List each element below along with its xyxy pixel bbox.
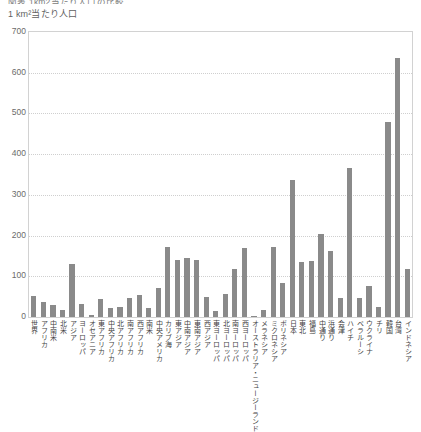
y-tick-label: 600 (2, 68, 26, 77)
y-tick-label: 300 (2, 190, 26, 199)
x-tick-label: 西アジア (202, 320, 211, 348)
bar (242, 248, 247, 317)
x-tick-label: ウクライナ (364, 320, 373, 355)
bar (89, 315, 94, 317)
bars-layer (29, 32, 412, 317)
bar (98, 299, 103, 317)
bar (347, 168, 352, 317)
x-tick-label: ベラルーシ (355, 320, 364, 355)
bar (175, 260, 180, 317)
bar (280, 283, 285, 317)
x-tick-label: オーストラリア・ニュージーランド (250, 320, 259, 432)
x-axis-labels: 世界アフリカ中南米北米アジアヨーロッパオセアニア東アフリカ中央アフリカ北アフリカ… (29, 320, 412, 424)
bar (261, 310, 266, 317)
x-tick-label: オセアニア (87, 320, 96, 355)
y-tick-label: 700 (2, 27, 26, 36)
x-tick-label: 中南米 (48, 320, 57, 341)
bar (376, 307, 381, 317)
x-tick-label: 北米 (58, 320, 67, 334)
x-tick-label: インドネシア (403, 320, 412, 362)
x-tick-label: 東アジア (173, 320, 182, 348)
x-tick-label: 北アフリカ (115, 320, 124, 355)
bar (318, 234, 323, 317)
x-tick-label: 東北 (297, 320, 306, 334)
bar (290, 180, 295, 317)
x-tick-label: 南アフリカ (125, 320, 134, 355)
y-tick-label: 100 (2, 271, 26, 280)
bar (213, 311, 218, 318)
x-tick-label: 西アフリカ (135, 320, 144, 355)
x-tick-label: 日本 (288, 320, 297, 334)
x-tick-label: 浜通り (326, 320, 335, 341)
x-tick-label: アフリカ (39, 320, 48, 348)
x-tick-label: 世界 (29, 320, 38, 334)
x-tick-label: ハイチ (345, 320, 354, 341)
x-tick-label: ミクロネシア (269, 320, 278, 362)
bar (309, 261, 314, 317)
bar (385, 122, 390, 317)
x-tick-label: ヨーロッパ (77, 320, 86, 355)
bar (357, 298, 362, 317)
clipped-figure-title: 図表 1km2当たり人口の比較 (8, 0, 124, 4)
bar (184, 258, 189, 317)
x-tick-label: ポリネシア (278, 320, 287, 355)
x-tick-label: 東南アジア (192, 320, 201, 355)
bar (232, 269, 237, 317)
x-tick-label: 西ヨーロッパ (240, 320, 249, 362)
y-tick-label: 400 (2, 149, 26, 158)
bar (194, 260, 199, 317)
bar (366, 286, 371, 317)
bar (60, 310, 65, 317)
x-tick-label: 韓国 (384, 320, 393, 334)
bar (204, 297, 209, 317)
x-tick-label: 福島 (307, 320, 316, 334)
x-tick-label: チリ (374, 320, 383, 334)
x-tick-label: 北ヨーロッパ (221, 320, 230, 362)
chart-axis-note: 1 km²当たり人口 (8, 7, 78, 20)
bar (31, 296, 36, 317)
bar (79, 304, 84, 317)
x-tick-label: 中南アジア (182, 320, 191, 355)
bar (405, 269, 410, 317)
x-tick-label: 中央アフリカ (106, 320, 115, 362)
bar (146, 308, 151, 317)
bar (223, 294, 228, 317)
x-tick-label: 南米 (144, 320, 153, 334)
bar (251, 316, 256, 317)
x-tick-label: 会津 (336, 320, 345, 334)
x-tick-label: 南ヨーロッパ (230, 320, 239, 362)
y-axis: 0100200300400500600700 (0, 31, 26, 318)
bar (165, 247, 170, 317)
y-tick-label: 200 (2, 231, 26, 240)
bar (127, 298, 132, 317)
x-tick-label: 東ヨーロッパ (211, 320, 220, 362)
bar (271, 247, 276, 317)
bar (299, 262, 304, 317)
bar (41, 302, 46, 317)
x-tick-label: 中通り (317, 320, 326, 341)
bar (156, 288, 161, 317)
x-tick-label: メラネシア (259, 320, 268, 355)
y-tick-label: 0 (2, 312, 26, 321)
x-tick-label: 台湾 (393, 320, 402, 334)
bar (108, 308, 113, 317)
bar (117, 307, 122, 317)
bar (328, 251, 333, 317)
x-tick-label: アジア (68, 320, 77, 341)
bar (69, 264, 74, 317)
bar (338, 298, 343, 317)
y-tick-label: 500 (2, 108, 26, 117)
bar (50, 305, 55, 317)
x-tick-label: 中央アメリカ (154, 320, 163, 362)
x-tick-label: 東アフリカ (96, 320, 105, 355)
x-tick-label: カリブ海 (163, 320, 172, 348)
bar (137, 295, 142, 317)
bar (395, 58, 400, 317)
